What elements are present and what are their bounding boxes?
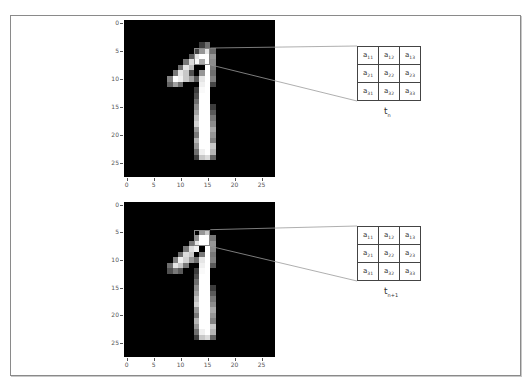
matrix-cell: a13 [400, 47, 421, 65]
matrix-cell: a21 [358, 65, 379, 83]
x-tick-label: 0 [121, 362, 133, 368]
x-tick-label: 20 [229, 362, 241, 368]
matrix-cell: a21 [358, 245, 379, 263]
matrix-cell: a11 [358, 227, 379, 245]
y-tick-label: 5 [105, 229, 119, 235]
matrix-cell: a12 [379, 47, 400, 65]
x-tick-label: 20 [229, 182, 241, 188]
matrix-cell: a31 [358, 83, 379, 101]
x-tick-label: 10 [175, 182, 187, 188]
matrix-cell: a23 [400, 65, 421, 83]
matrix-cell: a11 [358, 47, 379, 65]
matrix-cell: a33 [400, 83, 421, 101]
y-tick-label: 25 [105, 160, 119, 166]
y-tick-label: 0 [105, 20, 119, 26]
x-tick-label: 10 [175, 362, 187, 368]
y-tick-label: 20 [105, 132, 119, 138]
matrix-cell: a31 [358, 263, 379, 281]
y-tick-label: 25 [105, 340, 119, 346]
time-step-label-bottom: tn+1 [384, 286, 398, 298]
x-tick-label: 25 [256, 182, 268, 188]
y-tick-label: 10 [105, 257, 119, 263]
kernel-matrix-bottom: a11a12a13a21a22a23a31a32a33 [357, 226, 421, 281]
y-tick-label: 15 [105, 285, 119, 291]
x-tick-label: 0 [121, 182, 133, 188]
matrix-cell: a12 [379, 227, 400, 245]
mnist-digit-image-bottom [124, 202, 275, 357]
x-tick-label: 15 [202, 362, 214, 368]
matrix-cell: a33 [400, 263, 421, 281]
y-tick-label: 20 [105, 312, 119, 318]
matrix-cell: a13 [400, 227, 421, 245]
x-tick-label: 5 [148, 362, 160, 368]
matrix-cell: a23 [400, 245, 421, 263]
y-tick-label: 0 [105, 202, 119, 208]
matrix-cell: a22 [379, 65, 400, 83]
highlight-kernel-box [194, 48, 210, 65]
highlight-kernel-box [194, 230, 210, 247]
y-tick-label: 10 [105, 76, 119, 82]
y-tick-label: 5 [105, 48, 119, 54]
kernel-matrix-top: a11a12a13a21a22a23a31a32a33 [357, 46, 421, 101]
x-tick-label: 25 [256, 362, 268, 368]
matrix-cell: a32 [379, 263, 400, 281]
matrix-cell: a32 [379, 83, 400, 101]
x-tick-label: 15 [202, 182, 214, 188]
matrix-cell: a22 [379, 245, 400, 263]
time-step-label-top: tn [384, 106, 391, 118]
x-tick-label: 5 [148, 182, 160, 188]
mnist-digit-image-top [124, 20, 275, 177]
y-tick-label: 15 [105, 104, 119, 110]
